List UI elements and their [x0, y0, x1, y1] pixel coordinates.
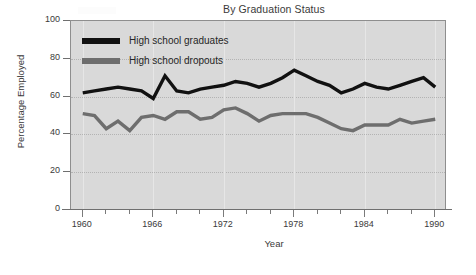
x-tick-major: [293, 210, 294, 217]
x-tick-minor: [387, 210, 388, 214]
y-tick-label: 100: [26, 15, 60, 24]
x-tick-major: [82, 210, 83, 217]
y-tick-label: 40: [26, 128, 60, 137]
y-tick: [63, 209, 70, 210]
x-tick-major: [152, 210, 153, 217]
chart-title: By Graduation Status: [0, 3, 476, 15]
y-tick-label-wrap: 60: [26, 91, 60, 100]
x-tick-major: [223, 210, 224, 217]
x-tick-minor: [176, 210, 177, 214]
y-tick-label: 60: [26, 91, 60, 100]
x-tick-minor: [340, 210, 341, 214]
x-tick-label: 1990: [424, 219, 444, 229]
x-tick-minor: [199, 210, 200, 214]
chart-figure: By Graduation Status 100806040200 196019…: [0, 0, 476, 275]
x-tick-label: 1984: [354, 219, 374, 229]
x-tick-minor: [246, 210, 247, 214]
y-tick-label-wrap: 20: [26, 166, 60, 175]
y-tick: [63, 171, 70, 172]
x-tick-minor: [129, 210, 130, 214]
chart-title-text: By Graduation Status: [223, 3, 325, 15]
x-tick-label: 1966: [142, 219, 162, 229]
x-tick-minor: [317, 210, 318, 214]
legend-item[interactable]: High school dropouts: [82, 53, 229, 68]
y-tick-label: 80: [26, 53, 60, 62]
x-axis-title-text: Year: [264, 238, 283, 249]
series-line: [83, 70, 436, 98]
y-axis-line: [70, 20, 71, 210]
y-tick-label: 0: [26, 204, 60, 213]
x-axis-line: [62, 209, 452, 210]
legend-swatch-icon: [82, 38, 120, 44]
chart-legend: High school graduatesHigh school dropout…: [82, 33, 229, 73]
y-tick: [63, 133, 70, 134]
y-tick: [63, 58, 70, 59]
y-tick-label-wrap: 0: [26, 204, 60, 213]
x-tick-label: 1978: [283, 219, 303, 229]
x-tick-label: 1972: [213, 219, 233, 229]
x-tick-minor: [105, 210, 106, 214]
legend-swatch-icon: [82, 58, 120, 64]
x-tick-minor: [270, 210, 271, 214]
x-tick-major: [364, 210, 365, 217]
y-tick-label-wrap: 80: [26, 53, 60, 62]
x-tick-minor: [411, 210, 412, 214]
legend-label: High school graduates: [129, 35, 229, 46]
y-tick-label-wrap: 40: [26, 128, 60, 137]
y-tick-label: 20: [26, 166, 60, 175]
x-tick-label: 1960: [72, 219, 92, 229]
y-tick: [63, 96, 70, 97]
y-tick-label-wrap: 100: [26, 15, 60, 24]
x-tick-major: [434, 210, 435, 217]
legend-item[interactable]: High school graduates: [82, 33, 229, 48]
y-axis-title: Percentage Employed: [15, 32, 26, 172]
x-axis-title: Year: [0, 238, 476, 249]
series-line: [83, 108, 436, 131]
legend-label: High school dropouts: [129, 55, 223, 66]
y-tick: [63, 20, 70, 21]
